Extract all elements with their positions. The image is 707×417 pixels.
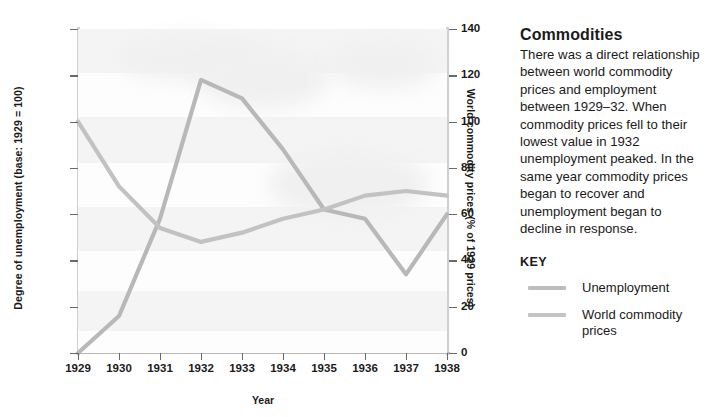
y-tick: [70, 122, 78, 123]
secondary-y-tick-label: 140: [461, 22, 480, 34]
x-tick-label: 1937: [383, 362, 429, 374]
secondary-y-tick: [449, 122, 457, 123]
plot-area: [78, 29, 447, 353]
x-tick: [324, 353, 325, 360]
chart-page: Degree of unemployment (base: 1929 = 100…: [0, 0, 707, 417]
x-tick: [119, 353, 120, 360]
y-tick: [70, 353, 78, 354]
commodities-panel: Commodities There was a direct relations…: [520, 26, 700, 339]
secondary-y-tick: [449, 260, 457, 261]
series-lines: [78, 29, 447, 353]
x-tick-label: 1934: [260, 362, 306, 374]
x-tick: [78, 353, 79, 360]
panel-heading: Commodities: [520, 26, 700, 44]
legend-label-world-commodity-prices: World commodity prices: [582, 307, 700, 339]
x-tick: [283, 353, 284, 360]
y-tick: [70, 75, 78, 76]
legend-swatch-world-commodity-prices: [528, 313, 566, 317]
x-tick-label: 1932: [178, 362, 224, 374]
secondary-y-tick: [449, 307, 457, 308]
x-tick-label: 1935: [301, 362, 347, 374]
x-tick-label: 1933: [219, 362, 265, 374]
x-tick: [447, 353, 448, 360]
line-world-commodity-prices: [78, 122, 447, 242]
x-tick-label: 1931: [137, 362, 183, 374]
secondary-y-tick: [449, 29, 457, 30]
legend-item-unemployment: Unemployment: [520, 280, 700, 296]
legend-label-unemployment: Unemployment: [582, 280, 669, 296]
secondary-y-tick-label: 0: [461, 346, 467, 358]
x-axis-title: Year: [78, 394, 448, 406]
chart-figure: Degree of unemployment (base: 1929 = 100…: [0, 0, 505, 417]
secondary-y-tick-label: 80: [461, 161, 474, 173]
secondary-y-tick: [449, 168, 457, 169]
x-tick-label: 1936: [342, 362, 388, 374]
x-tick-label: 1930: [96, 362, 142, 374]
x-tick: [160, 353, 161, 360]
x-tick-label: 1929: [55, 362, 101, 374]
key-heading: KEY: [520, 255, 700, 269]
y-tick: [70, 168, 78, 169]
secondary-y-tick: [449, 353, 457, 354]
secondary-y-tick-label: 40: [461, 253, 474, 265]
x-tick: [365, 353, 366, 360]
y-axis-title: Degree of unemployment (base: 1929 = 100…: [12, 38, 24, 358]
y-tick: [70, 307, 78, 308]
secondary-y-tick-label: 60: [461, 207, 474, 219]
x-tick: [242, 353, 243, 360]
secondary-y-tick-label: 100: [461, 115, 480, 127]
y-tick: [70, 29, 78, 30]
panel-body-text: There was a direct relationship between …: [520, 46, 700, 237]
y-tick: [70, 260, 78, 261]
legend-item-world-commodity-prices: World commodity prices: [520, 307, 700, 339]
y-tick: [70, 214, 78, 215]
secondary-y-tick: [449, 214, 457, 215]
line-unemployment: [78, 80, 447, 353]
secondary-y-tick: [449, 75, 457, 76]
secondary-y-tick-label: 120: [461, 68, 480, 80]
x-tick: [406, 353, 407, 360]
secondary-y-tick-label: 20: [461, 300, 474, 312]
x-tick-label: 1938: [424, 362, 470, 374]
legend-swatch-unemployment: [528, 286, 566, 290]
x-tick: [201, 353, 202, 360]
